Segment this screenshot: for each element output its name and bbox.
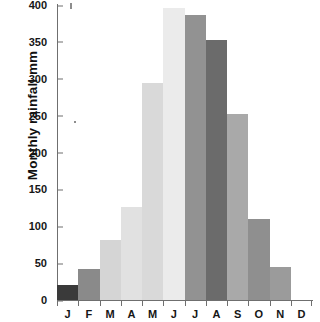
plot-area: 050100150200250300350400: [57, 5, 312, 300]
x-tick-september: S: [227, 300, 248, 322]
bar-november[interactable]: [270, 267, 291, 300]
x-tick-mark: [227, 300, 228, 306]
x-tick-label: A: [121, 300, 142, 320]
x-tick-mark: [121, 300, 122, 306]
bar-slot-february: [78, 5, 99, 300]
y-tick-150: 150: [29, 184, 57, 195]
x-tick-label: J: [57, 300, 78, 320]
y-tick-label: 400: [29, 0, 57, 11]
x-tick-july: J: [185, 300, 206, 322]
bar-august[interactable]: [206, 40, 227, 300]
x-tick-label: D: [291, 300, 312, 320]
y-tick-label: 350: [29, 36, 57, 47]
bar-slot-april: [121, 5, 142, 300]
y-tick-250: 250: [29, 110, 57, 121]
x-tick-label: N: [270, 300, 291, 320]
bar-slot-august: [206, 5, 227, 300]
x-tick-january: J: [57, 300, 78, 322]
y-tick-400: 400: [29, 0, 57, 11]
bar-may[interactable]: [142, 83, 163, 300]
x-tick-mark: [57, 300, 58, 306]
bar-april[interactable]: [121, 207, 142, 300]
x-tick-mark-end: [311, 300, 312, 306]
x-tick-april: A: [121, 300, 142, 322]
y-tick-label: 0: [41, 295, 57, 306]
x-tick-mark: [248, 300, 249, 306]
bar-slot-december: [291, 5, 312, 300]
x-tick-mark: [142, 300, 143, 306]
x-tick-label: J: [185, 300, 206, 320]
x-tick-mark: [206, 300, 207, 306]
bar-october[interactable]: [248, 219, 269, 300]
y-tick-label: 200: [29, 147, 57, 158]
x-tick-mark: [185, 300, 186, 306]
y-tick-350: 350: [29, 36, 57, 47]
rainfall-bar-chart: Monthly rainfall mm 05010015020025030035…: [0, 0, 320, 322]
bar-slot-july: [185, 5, 206, 300]
bar-slot-may: [142, 5, 163, 300]
x-tick-february: F: [78, 300, 99, 322]
x-tick-label: O: [248, 300, 269, 320]
y-tick-label: 50: [35, 258, 57, 269]
bar-slot-january: [57, 5, 78, 300]
x-tick-march: M: [100, 300, 121, 322]
y-tick-50: 50: [35, 258, 57, 269]
x-axis-labels: JFMAMJJASOND: [57, 300, 312, 322]
bar-june[interactable]: [163, 8, 184, 300]
x-tick-may: M: [142, 300, 163, 322]
y-tick-0: 0: [41, 295, 57, 306]
x-tick-label: F: [78, 300, 99, 320]
y-tick-label: 250: [29, 110, 57, 121]
x-tick-august: A: [206, 300, 227, 322]
x-tick-mark: [100, 300, 101, 306]
bar-slot-september: [227, 5, 248, 300]
y-tick-label: 100: [29, 221, 57, 232]
x-tick-mark: [78, 300, 79, 306]
x-tick-june: J: [163, 300, 184, 322]
bar-july[interactable]: [185, 15, 206, 300]
bar-february[interactable]: [78, 269, 99, 300]
x-tick-mark: [270, 300, 271, 306]
x-tick-label: S: [227, 300, 248, 320]
y-tick-label: 300: [29, 73, 57, 84]
bar-january[interactable]: [57, 285, 78, 300]
x-tick-mark: [291, 300, 292, 306]
y-tick-300: 300: [29, 73, 57, 84]
bar-slot-november: [270, 5, 291, 300]
x-tick-label: J: [163, 300, 184, 320]
bar-slot-march: [100, 5, 121, 300]
x-tick-label: A: [206, 300, 227, 320]
bar-slot-october: [248, 5, 269, 300]
bar-march[interactable]: [100, 240, 121, 300]
y-tick-100: 100: [29, 221, 57, 232]
x-tick-mark: [163, 300, 164, 306]
bar-series: [57, 5, 312, 300]
x-tick-november: N: [270, 300, 291, 322]
y-tick-label: 150: [29, 184, 57, 195]
x-tick-october: O: [248, 300, 269, 322]
x-tick-december: D: [291, 300, 312, 322]
y-tick-200: 200: [29, 147, 57, 158]
x-tick-label: M: [100, 300, 121, 320]
x-tick-label: M: [142, 300, 163, 320]
bar-september[interactable]: [227, 114, 248, 300]
bar-slot-june: [163, 5, 184, 300]
